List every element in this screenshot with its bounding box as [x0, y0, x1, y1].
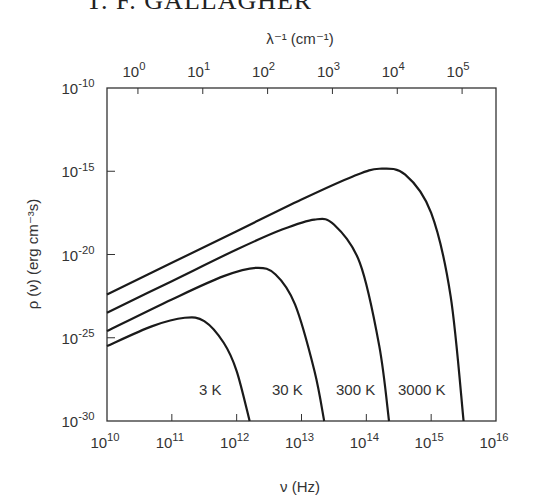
y-tick-label: 10-20	[62, 244, 95, 264]
curve-3k	[107, 317, 250, 421]
plot-frame	[107, 88, 496, 421]
x-tick-label: 1013	[285, 431, 314, 451]
x-axis-label: ν (Hz)	[280, 478, 320, 495]
curve-label: 3 K	[199, 381, 222, 398]
x-tick-label: 1010	[90, 431, 119, 451]
x-tick-label: 1015	[415, 431, 444, 451]
y-tick-label: 10-10	[62, 77, 95, 97]
curve-30k	[107, 268, 324, 421]
y-tick-label: 10-25	[62, 327, 95, 347]
x2-axis-label: λ⁻¹ (cm⁻¹)	[266, 30, 334, 47]
curve-label: 30 K	[272, 381, 303, 398]
x2-tick-label: 100	[122, 60, 145, 80]
x-tick-label: 1014	[350, 431, 379, 451]
x2-tick-label: 101	[187, 60, 210, 80]
x-tick-label: 1016	[479, 431, 508, 451]
x2-tick-label: 104	[382, 60, 405, 80]
blackbody-spectrum-chart: 101010111012101310141015101610-1010-1510…	[0, 0, 534, 500]
curve-label: 3000 K	[398, 381, 446, 398]
x2-tick-label: 103	[317, 60, 340, 80]
x2-tick-label: 102	[252, 60, 275, 80]
curve-label: 300 K	[336, 381, 375, 398]
x2-tick-label: 105	[447, 60, 470, 80]
y-tick-label: 10-15	[62, 161, 95, 181]
y-axis-label: ρ (ν) (erg cm⁻³s)	[24, 199, 41, 310]
x-tick-label: 1012	[220, 431, 249, 451]
x-tick-label: 1011	[156, 431, 184, 451]
y-tick-label: 10-30	[62, 410, 95, 430]
